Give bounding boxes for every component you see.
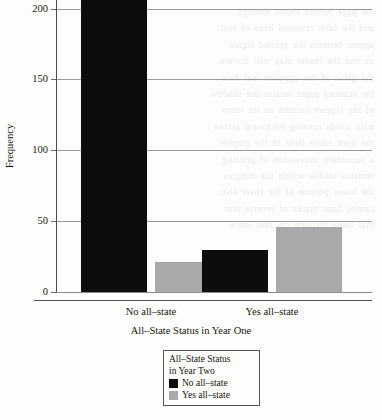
legend-label-yes-all-state: Yes all–state bbox=[182, 390, 230, 401]
y-tick-label-150: 150 bbox=[32, 74, 48, 85]
y-tick-label-50: 50 bbox=[38, 216, 49, 227]
legend-title-line-1: All–State Status bbox=[169, 354, 254, 366]
y-tick-label-100: 100 bbox=[32, 145, 48, 156]
y-tick-label-0: 0 bbox=[43, 287, 48, 298]
legend-swatch-icon-gray bbox=[169, 391, 178, 400]
x-category-label-1: No all–state bbox=[126, 306, 176, 317]
legend-title-line-2: in Year Two bbox=[169, 366, 254, 378]
legend-swatch-icon-black bbox=[169, 379, 178, 388]
legend-label-no-all-state: No all–state bbox=[182, 378, 228, 389]
y-axis-line bbox=[56, 0, 57, 292]
bar-chart: Frequency 050100150200 No all–stateYes a… bbox=[0, 0, 382, 420]
plot-area bbox=[57, 0, 372, 292]
y-tick-label-200: 200 bbox=[32, 3, 48, 14]
x-axis-baseline bbox=[57, 292, 372, 293]
legend-entry-yes-all-state: Yes all–state bbox=[169, 390, 254, 401]
legend: All–State Status in Year Two No all–stat… bbox=[163, 350, 260, 406]
y-axis-tick-labels: 050100150200 bbox=[0, 0, 52, 292]
x-axis-title: All–State Status in Year One bbox=[0, 325, 382, 336]
x-category-label-2: Yes all–state bbox=[246, 306, 299, 317]
legend-entry-no-all-state: No all–state bbox=[169, 378, 254, 389]
bar-2-2 bbox=[276, 227, 342, 292]
x-axis-rule bbox=[34, 300, 372, 301]
bar-2-1 bbox=[202, 250, 268, 293]
bar-1-1 bbox=[81, 0, 147, 292]
